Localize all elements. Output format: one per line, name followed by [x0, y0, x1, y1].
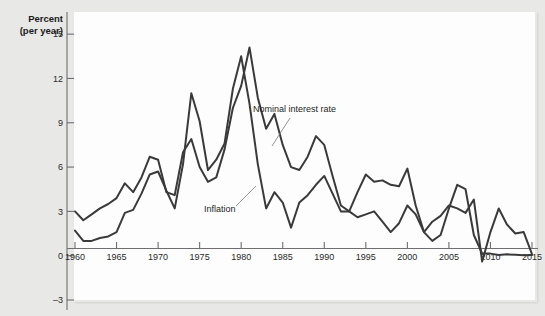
y-tick-label: 3: [58, 207, 63, 217]
x-tick-label: 1985: [273, 252, 293, 262]
x-tick-label: 1995: [356, 252, 376, 262]
annotation-inflation: Inflation: [204, 186, 256, 214]
series-line-nominal-interest-rate: [75, 47, 532, 255]
y-axis-title-line1: Percent: [28, 13, 64, 24]
figure-container: Percent (per year) 15129630–3 1960196519…: [0, 0, 545, 316]
x-tick-label: 1990: [314, 252, 334, 262]
x-tick-group: 1960196519701975198019851990199520002005…: [65, 242, 542, 262]
x-tick-label: 2005: [439, 252, 459, 262]
y-axis: 15129630–3: [53, 12, 74, 310]
x-tick-label: 2000: [397, 252, 417, 262]
y-tick-group: 15129630–3: [53, 29, 74, 305]
y-tick-label: 15: [53, 29, 63, 39]
line-chart: Percent (per year) 15129630–3 1960196519…: [0, 0, 545, 316]
y-tick-label: 9: [58, 118, 63, 128]
x-tick-label: 1980: [231, 252, 251, 262]
x-axis: 1960196519701975198019851990199520002005…: [65, 242, 542, 262]
x-tick-label: 1970: [148, 252, 168, 262]
annotation-label-inflation: Inflation: [204, 204, 236, 214]
series-group: [75, 47, 532, 261]
series-line-inflation: [75, 56, 532, 261]
y-tick-label: 6: [58, 162, 63, 172]
x-tick-label: 1965: [107, 252, 127, 262]
annotation-label-nominal: Nominal interest rate: [253, 104, 336, 114]
annotation-leader-inflation: [236, 186, 256, 206]
x-tick-label: 1975: [190, 252, 210, 262]
x-tick-label: 1960: [65, 252, 85, 262]
y-tick-label: –3: [53, 295, 63, 305]
y-tick-label: 0: [58, 251, 63, 261]
y-tick-label: 12: [53, 74, 63, 84]
